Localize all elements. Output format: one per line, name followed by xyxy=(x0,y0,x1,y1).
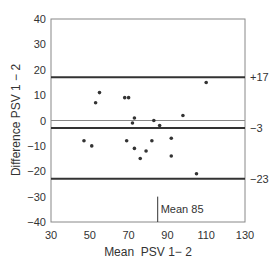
data-point xyxy=(169,154,173,158)
x-tick-label: 110 xyxy=(197,229,215,241)
reference-lines: +17−3−23 xyxy=(51,71,269,185)
y-tick-label: −10 xyxy=(27,140,46,152)
mean-difference-label: −3 xyxy=(250,122,263,134)
mean-marker-label: Mean 85 xyxy=(161,203,204,215)
data-point xyxy=(169,136,173,140)
data-point xyxy=(82,139,86,143)
data-point xyxy=(195,172,199,176)
data-point xyxy=(90,144,94,148)
data-point xyxy=(127,96,131,100)
y-tick-label: 40 xyxy=(34,13,46,25)
data-point xyxy=(158,124,162,128)
y-axis-ticks: 403020100−10−20−30−40 xyxy=(27,13,46,228)
data-point xyxy=(138,157,142,161)
x-axis-label: Mean PSV 1− 2 xyxy=(104,245,192,259)
x-axis-ticks: 30507090110130 xyxy=(45,229,254,241)
bland-altman-plot: +17−3−23 403020100−10−20−30−40 305070901… xyxy=(0,0,280,268)
data-point xyxy=(94,101,98,105)
upper-limit-label: +17 xyxy=(250,71,269,83)
x-tick-label: 70 xyxy=(122,229,134,241)
data-point xyxy=(181,114,185,118)
x-tick-label: 130 xyxy=(236,229,254,241)
y-tick-label: −20 xyxy=(27,165,46,177)
y-tick-label: 0 xyxy=(40,115,46,127)
y-tick-label: 20 xyxy=(34,64,46,76)
y-tick-label: 10 xyxy=(34,89,46,101)
data-point xyxy=(98,91,102,95)
data-point xyxy=(131,121,135,125)
data-point xyxy=(152,119,156,123)
data-point xyxy=(144,149,148,153)
x-tick-label: 50 xyxy=(84,229,96,241)
data-point xyxy=(133,116,137,120)
data-point xyxy=(204,81,208,85)
y-tick-label: −30 xyxy=(27,191,46,203)
x-tick-label: 30 xyxy=(45,229,57,241)
data-point xyxy=(123,96,127,100)
lower-limit-label: −23 xyxy=(250,173,269,185)
y-tick-label: −40 xyxy=(27,216,46,228)
data-point xyxy=(133,147,137,151)
y-tick-label: 30 xyxy=(34,38,46,50)
y-axis-label: Difference PSV 1 − 2 xyxy=(9,64,23,177)
annotations: Mean 85 xyxy=(158,197,204,222)
x-tick-label: 90 xyxy=(161,229,173,241)
data-point xyxy=(125,139,129,143)
data-point xyxy=(150,139,154,143)
